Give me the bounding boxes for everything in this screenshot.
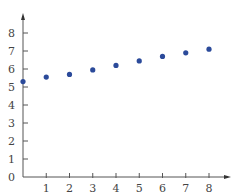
data-point	[206, 47, 211, 52]
x-axis-ticks: 12345678	[43, 173, 213, 195]
y-tick-label: 5	[8, 81, 15, 94]
data-points	[20, 47, 211, 85]
data-point	[67, 72, 72, 77]
y-tick-label: 7	[8, 45, 15, 58]
axes	[21, 13, 231, 179]
data-point	[160, 54, 165, 59]
y-tick-label: 3	[8, 117, 15, 130]
y-tick-label: 2	[8, 135, 15, 148]
y-tick-label: 4	[8, 99, 15, 112]
data-point	[183, 50, 188, 55]
x-tick-label: 6	[159, 182, 166, 195]
data-point	[137, 58, 142, 63]
scatter-chart: 012345678 12345678	[0, 0, 242, 196]
y-axis-ticks: 012345678	[8, 27, 28, 184]
x-tick-label: 3	[89, 182, 96, 195]
y-tick-label: 8	[8, 27, 15, 40]
x-tick-label: 8	[206, 182, 213, 195]
x-tick-label: 7	[182, 182, 189, 195]
data-point	[90, 67, 95, 72]
data-point	[44, 75, 49, 80]
x-tick-label: 4	[113, 182, 120, 195]
y-tick-label: 0	[8, 171, 15, 184]
y-axis-arrow-icon	[21, 13, 25, 20]
x-axis-arrow-icon	[224, 175, 231, 179]
data-point	[113, 63, 118, 68]
data-point	[20, 79, 25, 84]
y-tick-label: 6	[8, 63, 15, 76]
x-tick-label: 5	[136, 182, 143, 195]
y-tick-label: 1	[8, 153, 15, 166]
x-tick-label: 2	[66, 182, 73, 195]
x-tick-label: 1	[43, 182, 50, 195]
